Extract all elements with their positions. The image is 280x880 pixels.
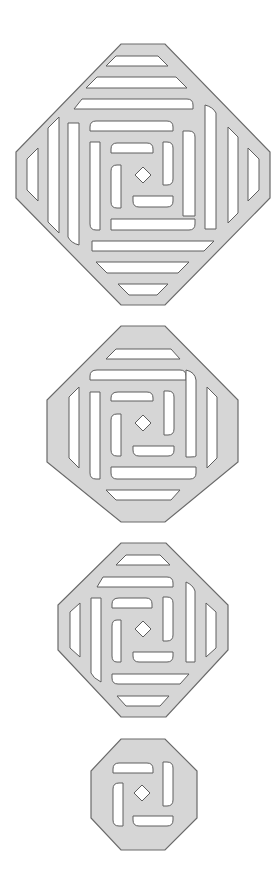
slot-cutout: [111, 219, 195, 230]
slot-cutout: [111, 414, 121, 456]
slot-cutout: [90, 392, 100, 479]
slot-cutout: [111, 392, 153, 401]
slot-cutout: [106, 490, 180, 500]
slot-cutout: [112, 598, 152, 608]
slot-cutout: [70, 603, 80, 657]
slot-cutout: [183, 131, 195, 216]
slot-cutout: [117, 696, 169, 706]
slot-cutout: [112, 674, 189, 684]
plate-small: [58, 543, 228, 717]
slot-cutout: [113, 763, 153, 773]
slot-cutout: [90, 121, 173, 131]
slot-cutout: [207, 387, 217, 468]
slot-cutout: [133, 446, 174, 456]
slot-cutout: [97, 577, 173, 587]
slot-cutout: [112, 620, 121, 662]
grille-figure: [0, 0, 280, 880]
slot-cutout: [186, 582, 195, 662]
plate-large: [16, 44, 270, 305]
slot-cutout: [186, 370, 196, 457]
plate-medium: [47, 326, 238, 522]
slot-cutout: [48, 117, 59, 233]
slot-cutout: [69, 387, 79, 468]
slot-cutout: [106, 349, 180, 359]
slot-cutout: [133, 816, 173, 826]
plate-tiny: [91, 739, 197, 850]
slot-cutout: [111, 467, 196, 479]
slot-cutout: [111, 165, 121, 208]
slot-cutout: [163, 762, 173, 806]
slot-cutout: [133, 652, 173, 662]
slot-cutout: [163, 597, 173, 641]
slot-cutout: [91, 598, 101, 682]
slot-cutout: [90, 370, 186, 380]
slot-cutout: [133, 196, 173, 207]
slot-cutout: [206, 603, 216, 657]
slot-cutout: [228, 127, 238, 223]
slot-cutout: [68, 123, 79, 245]
slot-cutout: [74, 99, 193, 109]
slot-cutout: [96, 262, 189, 273]
slot-cutout: [163, 142, 173, 185]
slot-cutout: [106, 56, 168, 66]
slot-cutout: [90, 142, 100, 230]
slot-cutout: [111, 143, 153, 153]
slot-cutout: [164, 391, 174, 435]
slot-cutout: [92, 241, 214, 251]
slot-cutout: [86, 77, 187, 88]
slot-cutout: [116, 555, 170, 565]
slot-cutout: [113, 783, 123, 826]
slot-cutout: [205, 105, 216, 229]
